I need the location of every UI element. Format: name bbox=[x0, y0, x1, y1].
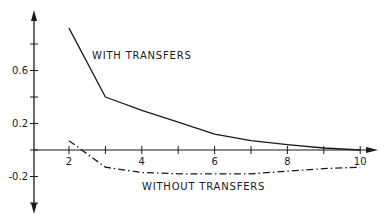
x-tick-label: 10 bbox=[354, 156, 367, 167]
y-tick-label: -0.2 bbox=[8, 171, 28, 182]
y-axis-arrow-up-icon bbox=[31, 10, 37, 21]
x-tick-label: 6 bbox=[211, 156, 217, 167]
x-tick-label: 4 bbox=[139, 156, 145, 167]
series-with-transfers bbox=[69, 28, 360, 150]
label-without-transfers: WITHOUT TRANSFERS bbox=[142, 181, 265, 192]
label-with-transfers: WITH TRANSFERS bbox=[92, 50, 192, 61]
annotations: WITH TRANSFERSWITHOUT TRANSFERS bbox=[92, 50, 265, 192]
y-axis-arrow-down-icon bbox=[31, 203, 37, 214]
x-axis-arrow-icon bbox=[366, 147, 378, 153]
x-tick-label: 8 bbox=[284, 156, 290, 167]
x-tick-label: 2 bbox=[66, 156, 72, 167]
line-chart: 2468100.60.2-0.2 WITH TRANSFERSWITHOUT T… bbox=[0, 0, 388, 219]
axis-ticks: 2468100.60.2-0.2 bbox=[8, 44, 366, 203]
y-tick-label: 0.6 bbox=[12, 65, 28, 76]
y-tick-label: 0.2 bbox=[12, 118, 28, 129]
